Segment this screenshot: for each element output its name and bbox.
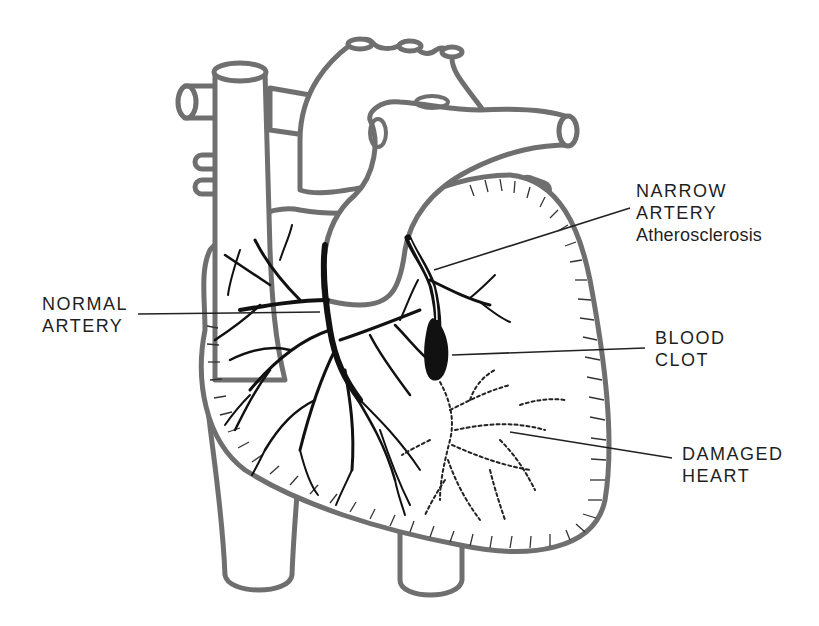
- label-line: NARROW: [636, 180, 762, 202]
- label-line: ARTERY: [636, 202, 762, 224]
- label-damaged-heart: DAMAGED HEART: [682, 443, 784, 487]
- label-narrow-artery: NARROW ARTERY Atherosclerosis: [636, 180, 762, 246]
- label-normal-artery: NORMAL ARTERY: [42, 293, 128, 337]
- label-line: DAMAGED: [682, 443, 784, 465]
- label-line: HEART: [682, 465, 784, 487]
- label-subtitle: Atherosclerosis: [636, 224, 762, 246]
- label-blood-clot: BLOOD CLOT: [655, 327, 726, 371]
- label-line: CLOT: [655, 349, 726, 371]
- label-line: BLOOD: [655, 327, 726, 349]
- label-line: ARTERY: [42, 315, 128, 337]
- aorta-opening: [559, 116, 577, 146]
- label-line: NORMAL: [42, 293, 128, 315]
